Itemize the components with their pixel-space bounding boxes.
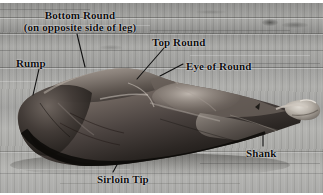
- wood-knot: [262, 19, 278, 26]
- label-top-round: Top Round: [152, 36, 205, 48]
- label-bottom-round-line2: (on opposite side of leg): [14, 21, 146, 33]
- wood-grain: [190, 55, 310, 56]
- wood-knot: [196, 10, 226, 14]
- wood-knot: [282, 22, 308, 28]
- wood-grain: [0, 81, 60, 82]
- plank-highlight: [0, 34, 323, 35]
- label-shank: Shank: [246, 147, 276, 159]
- label-bottom-round: Bottom Round (on opposite side of leg): [14, 9, 146, 33]
- wood-grain: [60, 183, 240, 184]
- label-bottom-round-line1: Bottom Round: [14, 9, 146, 21]
- wood-grain: [240, 63, 320, 64]
- plank-highlight: [0, 68, 323, 69]
- plank-seam: [0, 50, 323, 51]
- label-eye-of-round: Eye of Round: [186, 60, 251, 72]
- beef-round-figure: Bottom Round (on opposite side of leg) T…: [0, 0, 323, 195]
- label-sirloin-tip: Sirloin Tip: [97, 173, 149, 185]
- plank-seam: [0, 173, 323, 174]
- wood-grain: [200, 163, 320, 164]
- wood-knot: [100, 45, 122, 50]
- wood-grain: [150, 30, 290, 31]
- label-rump: Rump: [16, 57, 46, 69]
- wood-grain: [20, 169, 130, 170]
